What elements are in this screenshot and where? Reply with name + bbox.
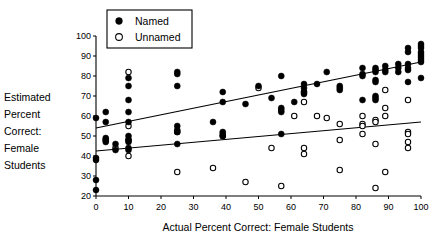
data-point <box>324 115 329 120</box>
data-point <box>103 109 109 115</box>
y-tick-label: 30 <box>81 171 91 181</box>
data-point <box>373 69 379 75</box>
data-point <box>256 83 262 89</box>
data-point <box>292 113 297 118</box>
data-point <box>418 75 424 81</box>
data-point <box>93 115 99 121</box>
y-tick-label: 60 <box>81 111 91 121</box>
x-tick-label: 100 <box>413 202 428 212</box>
data-point <box>103 119 109 125</box>
data-point <box>174 129 180 135</box>
data-point <box>126 97 132 103</box>
y-axis-title-line: Correct: <box>4 125 41 137</box>
data-point <box>337 87 343 93</box>
regression-line <box>96 62 421 128</box>
data-point <box>126 109 132 115</box>
data-point <box>360 113 365 118</box>
y-tick-label: 90 <box>81 51 91 61</box>
data-point <box>418 59 424 65</box>
data-point <box>383 87 388 92</box>
y-axis-title: EstimatedPercentCorrect:FemaleStudents <box>4 91 51 171</box>
data-point <box>269 95 275 101</box>
data-point <box>360 97 366 103</box>
data-point <box>93 187 99 193</box>
y-tick-label: 20 <box>81 191 91 201</box>
legend-label-unnamed: Unnamed <box>135 31 181 43</box>
data-point <box>373 79 379 85</box>
x-tick-label: 20 <box>156 202 166 212</box>
x-tick-label: 80 <box>351 202 361 212</box>
data-point <box>174 71 180 77</box>
data-point <box>113 141 119 147</box>
data-point <box>174 141 180 147</box>
x-tick-label: 50 <box>253 202 263 212</box>
data-point <box>269 145 274 150</box>
legend-label-named: Named <box>135 15 169 27</box>
y-axis-ticks: 2030405060708090100 <box>76 31 96 201</box>
data-point <box>113 147 119 153</box>
data-point <box>126 83 132 89</box>
data-point <box>395 69 401 75</box>
data-point <box>301 99 306 104</box>
data-point <box>126 153 131 158</box>
y-axis-title-line: Estimated <box>4 91 51 103</box>
data-point <box>337 121 342 126</box>
data-point <box>220 89 226 95</box>
data-point <box>405 67 411 73</box>
data-point <box>373 141 378 146</box>
data-point <box>93 177 99 183</box>
data-point <box>126 119 132 125</box>
data-point <box>360 65 366 71</box>
x-tick-label: 10 <box>123 202 133 212</box>
data-point <box>383 113 388 118</box>
legend-marker-named <box>116 18 123 25</box>
legend: Named Unnamed <box>107 10 192 48</box>
y-tick-label: 70 <box>81 91 91 101</box>
y-tick-label: 40 <box>81 151 91 161</box>
data-point <box>324 69 330 75</box>
data-point <box>360 131 365 136</box>
legend-marker-unnamed <box>116 34 123 41</box>
data-point <box>243 179 248 184</box>
data-point <box>291 99 297 105</box>
data-point <box>405 49 411 55</box>
data-point <box>382 69 388 75</box>
data-point <box>405 145 410 150</box>
x-tick-label: 60 <box>286 202 296 212</box>
y-tick-label: 80 <box>81 71 91 81</box>
data-point <box>360 123 365 128</box>
y-axis-title-line: Students <box>4 159 45 171</box>
scatter-plot-figure: 2030405060708090100 01020304050607080901… <box>0 0 443 243</box>
data-point <box>278 73 284 79</box>
data-point <box>373 97 379 103</box>
data-point <box>210 119 216 125</box>
data-point <box>174 83 180 89</box>
y-axis-title-line: Percent <box>4 108 40 120</box>
data-point <box>126 139 132 145</box>
data-point <box>278 131 284 137</box>
data-point <box>243 101 249 107</box>
plot-canvas: 2030405060708090100 01020304050607080901… <box>0 0 443 243</box>
y-tick-label: 50 <box>81 131 91 141</box>
x-tick-label: 0 <box>93 202 98 212</box>
data-point <box>278 109 284 115</box>
data-point <box>405 97 410 102</box>
data-point <box>405 131 410 136</box>
y-tick-label: 100 <box>76 31 91 41</box>
data-point <box>301 145 306 150</box>
data-point <box>126 75 132 81</box>
x-tick-label: 90 <box>383 202 393 212</box>
regression-lines <box>96 62 421 151</box>
data-point <box>405 139 410 144</box>
data-point <box>373 119 378 124</box>
data-point <box>314 113 319 118</box>
data-point <box>210 165 215 170</box>
data-point <box>93 157 99 163</box>
data-point <box>301 151 306 156</box>
regression-line <box>96 122 421 151</box>
data-point <box>175 169 180 174</box>
data-point <box>126 69 131 74</box>
data-point <box>220 133 226 139</box>
x-axis-ticks: 0102030405060708090100 <box>93 196 428 212</box>
data-point <box>279 183 284 188</box>
